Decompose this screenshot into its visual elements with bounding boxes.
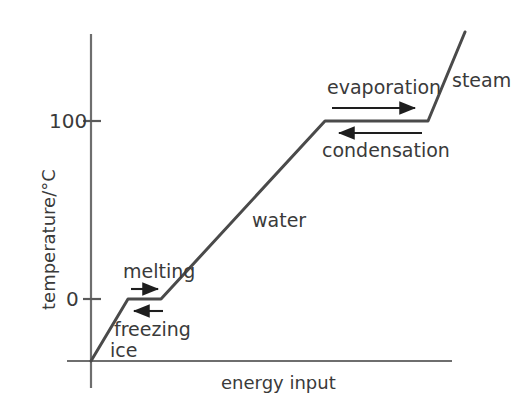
heating-curve-svg — [0, 0, 516, 416]
melting-label: melting — [123, 262, 195, 281]
y-tick-label-0: 0 — [66, 289, 79, 309]
evaporation-label: evaporation — [327, 78, 441, 97]
ice-label: ice — [110, 341, 137, 360]
y-axis-title: temperature/°C — [40, 169, 58, 310]
condensation-label: condensation — [322, 141, 450, 160]
freezing-label: freezing — [114, 320, 191, 339]
water-label: water — [252, 211, 306, 230]
y-tick-label-100: 100 — [49, 111, 87, 131]
steam-label: steam — [452, 71, 511, 90]
x-axis-title: energy input — [221, 374, 336, 392]
heating-curve-figure: 100 0 temperature/°C energy input meltin… — [0, 0, 516, 416]
